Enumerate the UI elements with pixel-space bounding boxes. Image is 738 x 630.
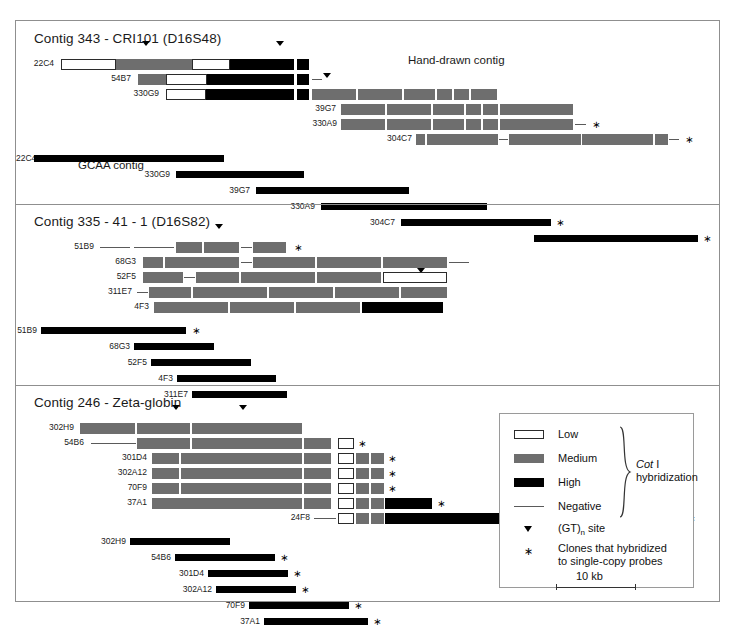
contig-bar (176, 171, 304, 178)
clone-segment-medium (401, 287, 447, 298)
clone-segment-medium (437, 89, 452, 100)
clone-segment-medium (471, 89, 497, 100)
contig-bar-row: 52F5 (16, 358, 719, 367)
single-copy-star-icon: ∗ (358, 439, 366, 448)
clone-segment-neg (241, 257, 252, 268)
clone-segment-neg (134, 242, 174, 253)
clone-segment-medium (296, 302, 360, 313)
clone-segment-medium (404, 89, 435, 100)
clone-row-label: 302A12 (108, 467, 147, 478)
legend-gt-site-icon (524, 526, 532, 532)
contig-bar-row: 330G9 (16, 170, 719, 179)
contig-bar-label: 302A12 (169, 585, 212, 594)
clone-segment-medium (154, 59, 192, 70)
contig-bar (134, 343, 214, 350)
legend-star-label-line2: to single-copy probes (558, 555, 663, 567)
legend-star-label-line1: Clones that hybridized (558, 542, 667, 554)
single-copy-star-icon: ∗ (294, 243, 302, 252)
clone-segment-low (338, 453, 354, 464)
clone-segment-medium (371, 513, 384, 524)
clone-segment-medium (304, 483, 331, 494)
clone-segment-low (338, 438, 354, 449)
contig-bar-label: 4F3 (138, 374, 173, 383)
clone-row-label: 4F3 (121, 301, 149, 312)
panel-title: Contig 246 - Zeta-globin (34, 395, 181, 410)
clone-row-label: 37A1 (116, 497, 147, 508)
clone-segment-medium (304, 438, 331, 449)
clone-segment-medium (358, 89, 402, 100)
contig-bar (256, 187, 409, 194)
contig-bar-label: 330G9 (134, 170, 170, 179)
legend-swatch-medium (514, 454, 544, 463)
legend-swatch-low (514, 430, 544, 439)
contig-bar-label: 37A1 (224, 617, 260, 626)
contig-bar-row: 4F3 (16, 374, 719, 383)
contig-bar-row: 39G7 (16, 186, 719, 195)
clone-segment-neg (499, 134, 508, 145)
clone-segment-medium (80, 423, 135, 434)
clone-segment-medium (371, 453, 384, 464)
single-copy-star-icon: ∗ (354, 601, 362, 610)
clone-segment-medium (143, 257, 163, 268)
clone-segment-medium (341, 119, 385, 130)
gt-site-marker-icon (172, 405, 180, 410)
gt-site-marker-icon (239, 405, 247, 410)
contig-bar-row: 70F9∗ (16, 601, 719, 610)
clone-row-label: 39G7 (306, 103, 336, 114)
scale-bar (556, 584, 636, 590)
clone-segment-medium (152, 498, 302, 509)
clone-segment-medium (317, 257, 381, 268)
clone-segment-medium (356, 453, 369, 464)
clone-segment-neg (100, 242, 130, 253)
clone-segment-low (338, 513, 354, 524)
clone-segment-low (338, 468, 354, 479)
clone-segment-medium (454, 89, 469, 100)
clone-segment-neg (575, 119, 586, 130)
contig-bar-row: 22C4 (16, 154, 719, 163)
clone-segment-neg (669, 134, 679, 145)
clone-segment-medium (500, 104, 573, 115)
single-copy-star-icon: ∗ (388, 454, 396, 463)
clone-segment-medium (165, 257, 239, 268)
clone-segment-medium (181, 483, 302, 494)
clone-segment-medium (371, 468, 384, 479)
clone-segment-medium (152, 453, 179, 464)
contig-bar-label: 302H9 (88, 537, 126, 546)
clone-segment-medium (269, 287, 333, 298)
clone-segment-high (206, 89, 294, 100)
clone-segment-medium (143, 272, 183, 283)
clone-segment-medium (253, 242, 286, 253)
contig-bar-label: 52F5 (111, 358, 147, 367)
clone-row: 330G9 (16, 89, 719, 100)
clone-row-label: 54B7 (101, 73, 131, 84)
panel-panel-335: Contig 335 - 41 - 1 (D16S82)51B9∗68G352F… (16, 204, 719, 385)
panel-divider (16, 204, 719, 205)
contig-bar (264, 618, 368, 625)
clone-segment-medium (196, 272, 239, 283)
contig-bar-label: 70F9 (209, 601, 245, 610)
clone-segment-medium (387, 119, 431, 130)
clone-segment-medium (582, 134, 653, 145)
clone-segment-medium (433, 119, 464, 130)
clone-segment-medium (304, 468, 331, 479)
legend-swatch-neg (514, 502, 544, 511)
legend-gt-site-label: (GT)n site (558, 522, 605, 539)
clone-segment-medium (253, 257, 315, 268)
clone-row-label: 54B6 (54, 437, 84, 448)
clone-segment-medium (149, 287, 191, 298)
clone-row-label: 51B9 (64, 241, 94, 252)
contig-bar (34, 155, 224, 162)
clone-segment-medium (154, 302, 228, 313)
clone-segment-medium (152, 468, 179, 479)
clone-segment-medium (655, 134, 668, 145)
clone-segment-medium (466, 119, 481, 130)
contig-bar (130, 538, 230, 545)
clone-row: 39G7 (16, 104, 719, 115)
clone-segment-medium (371, 483, 384, 494)
clone-row: 311E7 (16, 287, 719, 298)
clone-segment-low (383, 272, 447, 283)
contig-bar-row: 37A1∗ (16, 617, 719, 626)
panel-title: Contig 335 - 41 - 1 (D16S82) (34, 214, 210, 229)
clone-row-label: 70F9 (116, 482, 147, 493)
clone-row-label: 302H9 (38, 422, 74, 433)
